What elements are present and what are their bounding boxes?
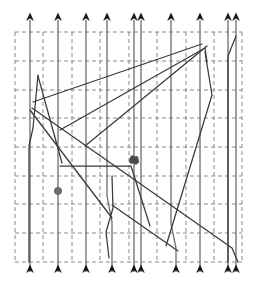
cluster-marker bbox=[129, 155, 139, 164]
cluster-marker-dot-5 bbox=[134, 159, 139, 164]
trajectory-plot bbox=[0, 0, 254, 291]
gray-dot-marker bbox=[54, 187, 61, 194]
cluster-marker-dot-6 bbox=[129, 157, 134, 162]
figure-root bbox=[0, 0, 254, 291]
plot-background bbox=[0, 0, 254, 291]
